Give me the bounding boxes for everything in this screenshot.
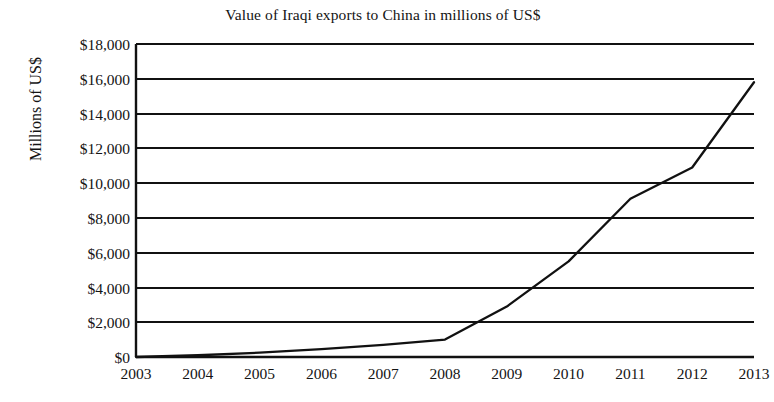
x-tick-label: 2006 <box>286 366 356 382</box>
x-tick-label: 2004 <box>163 366 233 382</box>
x-tick-label: 2009 <box>472 366 542 382</box>
x-tick-label: 2012 <box>657 366 727 382</box>
x-tick-label: 2008 <box>410 366 480 382</box>
x-tick-label: 2013 <box>719 366 774 382</box>
x-tick-label: 2011 <box>595 366 665 382</box>
x-tick-label: 2005 <box>225 366 295 382</box>
x-tick-label: 2003 <box>101 366 171 382</box>
x-tick-label: 2010 <box>534 366 604 382</box>
x-tick-label: 2007 <box>348 366 418 382</box>
